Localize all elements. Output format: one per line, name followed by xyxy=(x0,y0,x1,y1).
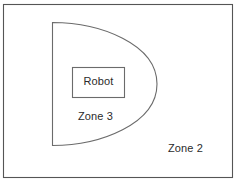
zone-2-label: Zone 2 xyxy=(168,143,203,154)
zone-diagram: Robot Zone 3 Zone 2 xyxy=(0,0,239,184)
robot-label: Robot xyxy=(72,76,125,87)
diagram-canvas xyxy=(0,0,239,184)
zone-3-label: Zone 3 xyxy=(78,111,113,122)
